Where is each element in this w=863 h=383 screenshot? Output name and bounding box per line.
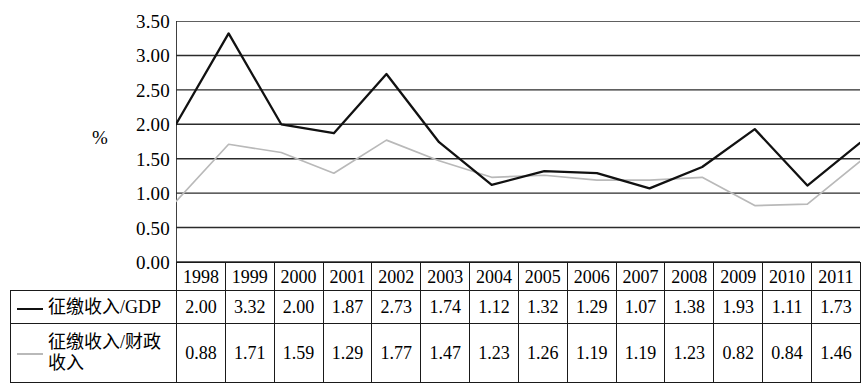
year-header-cell: 2004 (470, 263, 519, 291)
data-cell: 1.74 (421, 291, 470, 324)
data-cell: 2.73 (372, 291, 421, 324)
year-header-cell: 1998 (177, 263, 226, 291)
y-tick-label: 3.00 (110, 46, 170, 65)
chart-data-table: 1998199920002001200220032004200520062007… (10, 262, 861, 383)
y-axis-unit-label: % (92, 128, 108, 148)
data-cell: 1.11 (763, 291, 812, 324)
data-cell: 0.88 (177, 324, 226, 383)
y-tick-label: 3.50 (110, 12, 170, 31)
year-header-cell: 2007 (616, 263, 665, 291)
data-cell: 1.73 (811, 291, 860, 324)
y-tick-label: 1.50 (110, 150, 170, 169)
y-tick-label: 2.50 (110, 81, 170, 100)
year-header-cell: 2000 (274, 263, 323, 291)
data-cell: 1.77 (372, 324, 421, 383)
data-cell: 0.82 (714, 324, 763, 383)
y-tick-label: 0.50 (110, 219, 170, 238)
data-cell: 2.00 (274, 291, 323, 324)
line-chart: % 3.50 3.00 2.50 2.00 1.50 1.00 0.50 0.0… (0, 0, 863, 266)
data-cell: 1.19 (616, 324, 665, 383)
data-cell: 1.47 (421, 324, 470, 383)
year-header-cell: 2005 (518, 263, 567, 291)
y-axis-tick-labels: 3.50 3.00 2.50 2.00 1.50 1.00 0.50 0.00 (108, 0, 170, 266)
data-cell: 1.59 (274, 324, 323, 383)
y-tick-label: 2.00 (110, 115, 170, 134)
data-cell: 1.93 (714, 291, 763, 324)
year-header-cell: 2003 (421, 263, 470, 291)
table-row: 征缴收入/财政收入 0.881.711.591.291.771.471.231.… (11, 324, 861, 383)
data-cell: 1.23 (665, 324, 714, 383)
data-cell: 2.00 (177, 291, 226, 324)
plot-area (176, 21, 860, 262)
table-corner-blank (11, 263, 177, 291)
data-cell: 1.46 (811, 324, 860, 383)
year-header-cell: 2002 (372, 263, 421, 291)
series-2-label-line1: 征缴收入/财政 (48, 332, 161, 352)
data-cell: 0.84 (763, 324, 812, 383)
year-header-cell: 2008 (665, 263, 714, 291)
series-2-label: 征缴收入/财政收入 (48, 332, 168, 374)
data-cell: 1.32 (518, 291, 567, 324)
data-cell: 1.87 (323, 291, 372, 324)
data-cell: 1.23 (470, 324, 519, 383)
data-cell: 1.19 (567, 324, 616, 383)
series-1-label-cell: 征缴收入/GDP (11, 291, 177, 324)
data-cell: 1.38 (665, 291, 714, 324)
data-cell: 1.71 (225, 324, 274, 383)
data-cell: 1.26 (518, 324, 567, 383)
year-header-cell: 2011 (811, 263, 860, 291)
data-cell: 1.07 (616, 291, 665, 324)
table-header-row: 1998199920002001200220032004200520062007… (11, 263, 861, 291)
data-cell: 3.32 (225, 291, 274, 324)
year-header-cell: 1999 (225, 263, 274, 291)
data-cell: 1.29 (567, 291, 616, 324)
data-cell: 1.29 (323, 324, 372, 383)
series-line-1 (176, 33, 860, 188)
gray-line-icon (17, 343, 43, 364)
year-header-cell: 2001 (323, 263, 372, 291)
table-row: 征缴收入/GDP 2.003.322.001.872.731.741.121.3… (11, 291, 861, 324)
plot-svg (176, 21, 860, 262)
year-header-cell: 2009 (714, 263, 763, 291)
series-1-label: 征缴收入/GDP (48, 297, 161, 318)
series-2-label-cell: 征缴收入/财政收入 (11, 324, 177, 383)
solid-line-icon (17, 297, 43, 318)
year-header-cell: 2010 (763, 263, 812, 291)
series-line-2 (176, 140, 860, 205)
data-cell: 1.12 (470, 291, 519, 324)
series-2-label-line2: 收入 (48, 353, 84, 373)
year-header-cell: 2006 (567, 263, 616, 291)
y-tick-label: 1.00 (110, 184, 170, 203)
